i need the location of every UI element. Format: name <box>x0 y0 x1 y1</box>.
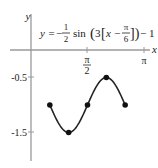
key-points <box>47 75 128 136</box>
data-point <box>66 130 72 136</box>
svg-text:sin: sin <box>73 27 86 39</box>
svg-text:π: π <box>84 54 89 65</box>
svg-text:6: 6 <box>124 34 129 44</box>
svg-text:y =: y = <box>39 27 55 39</box>
svg-text:−: − <box>56 27 62 39</box>
x-tick-pi-over-2: π 2 <box>83 47 91 76</box>
svg-text:2: 2 <box>64 34 69 44</box>
svg-text:-0.5: -0.5 <box>11 72 27 83</box>
sine-chart: y x y = − 1 2 sin ( 3 [ x − π 6 ]) − 1 π… <box>0 0 158 168</box>
data-point <box>85 102 91 108</box>
x-axis-label: x <box>151 43 157 55</box>
svg-text:π: π <box>124 22 129 32</box>
svg-text:π: π <box>141 55 146 66</box>
svg-text:1: 1 <box>64 22 69 32</box>
data-point <box>47 102 53 108</box>
svg-text:− 1: − 1 <box>140 27 154 39</box>
data-point <box>104 75 110 81</box>
y-axis-label: y <box>25 10 31 22</box>
equation-label: y = − 1 2 sin ( 3 [ x − π 6 ]) − 1 <box>39 22 154 44</box>
svg-text:-1.5: -1.5 <box>11 127 27 138</box>
data-point <box>122 102 128 108</box>
svg-text:]): ]) <box>130 26 140 42</box>
svg-text:2: 2 <box>85 65 90 76</box>
svg-text:x −: x − <box>105 27 121 39</box>
